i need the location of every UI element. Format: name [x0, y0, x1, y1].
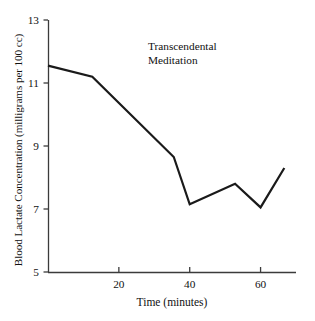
y-axis-title: Blood Lactate Concentration (milligrams …	[9, 14, 27, 286]
annotation-line-1: Transcendental	[148, 40, 217, 54]
y-tick-marks	[44, 20, 49, 272]
data-series-line	[48, 66, 284, 208]
annotation-line-2: Meditation	[148, 54, 217, 68]
chart-figure: 5791113 204060 Blood Lactate Concentrati…	[0, 0, 315, 321]
x-tick-label-60: 60	[249, 278, 273, 290]
x-axis-title: Time (minutes)	[48, 296, 296, 308]
series-annotation: Transcendental Meditation	[148, 40, 217, 67]
x-tick-label-20: 20	[107, 278, 131, 290]
x-tick-label-40: 40	[178, 278, 202, 290]
x-tick-marks	[119, 267, 261, 272]
